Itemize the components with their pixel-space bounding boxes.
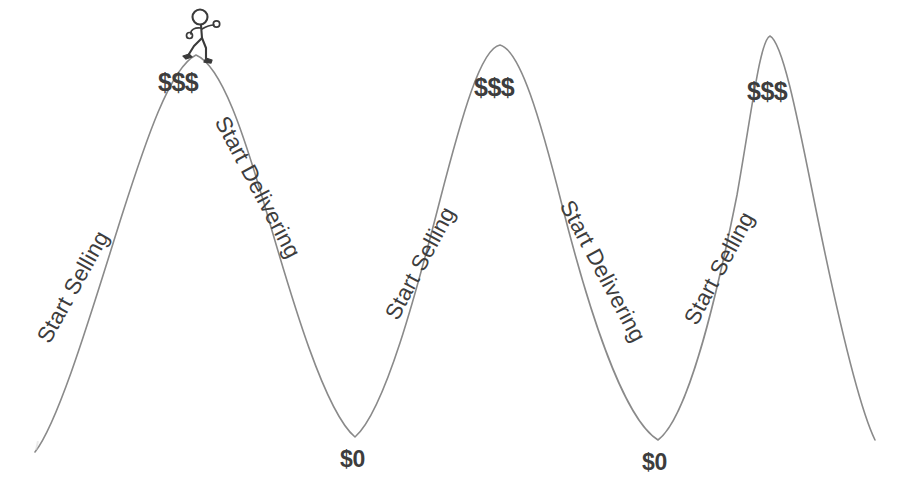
- valley-zero-label-2: $0: [642, 449, 667, 476]
- wave-graphic: [0, 0, 904, 489]
- peak-money-label-1: $$$: [158, 68, 198, 97]
- stick-figure-foot-front: [204, 58, 212, 63]
- stick-figure-torso: [201, 25, 202, 38]
- running-stick-figure: [183, 10, 220, 64]
- peak-money-label-3: $$$: [747, 77, 787, 106]
- stick-figure-leg-back: [189, 38, 202, 54]
- stick-figure-head: [193, 10, 208, 25]
- stick-figure-item-right: [213, 21, 219, 27]
- diagram-canvas: $$$ $$$ $$$ $0 $0 Start Selling Start De…: [0, 0, 904, 489]
- stick-figure-item-left: [187, 33, 193, 39]
- peak-money-label-2: $$$: [474, 73, 514, 102]
- stick-figure-leg-front: [202, 38, 206, 58]
- stick-figure-arm-front: [202, 25, 214, 29]
- valley-zero-label-1: $0: [340, 446, 365, 473]
